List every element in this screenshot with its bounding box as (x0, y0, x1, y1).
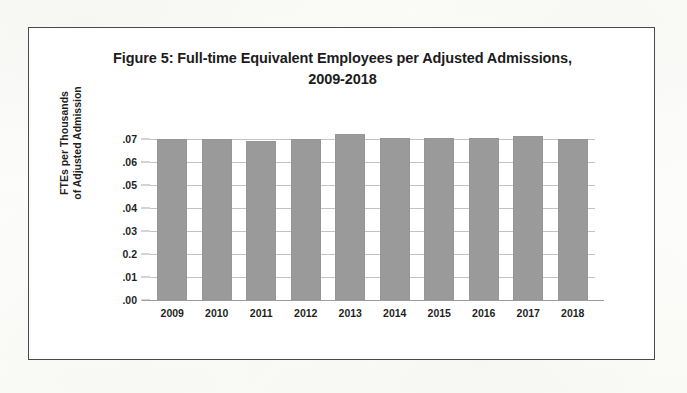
plot-area (150, 116, 595, 300)
bar-slot (551, 116, 596, 300)
bar-slot (506, 116, 551, 300)
x-axis-tick-label: 2014 (373, 307, 418, 319)
x-axis-tick-labels: 2009201020112012201320142015201620172018 (150, 307, 595, 319)
bar-slot (195, 116, 240, 300)
bar (380, 138, 410, 300)
x-axis-tick-label: 2011 (239, 307, 284, 319)
bar-series (150, 116, 595, 300)
bar (202, 139, 232, 300)
y-axis-tick-label: .05 (101, 179, 137, 191)
x-axis-tick-label: 2013 (328, 307, 373, 319)
bar-slot (417, 116, 462, 300)
y-axis-tick-mark (141, 300, 150, 301)
y-axis-title-line-2: of Adjusted Admission (71, 63, 84, 223)
y-axis-tick-label: .01 (101, 271, 137, 283)
x-axis-tick-label: 2010 (195, 307, 240, 319)
bar (335, 134, 365, 300)
y-axis-title: FTEs per Thousands of Adjusted Admission (58, 63, 88, 223)
y-axis-tick-label: 0.2 (101, 248, 137, 260)
x-axis-tick-label: 2009 (150, 307, 195, 319)
bar (246, 141, 276, 300)
bar (291, 139, 321, 300)
x-axis-tick-label: 2015 (417, 307, 462, 319)
y-axis-tick-label: .07 (101, 133, 137, 145)
y-axis-tick-labels: .07.06.05.04.030.2.01.00 (101, 116, 137, 300)
y-axis-tick-label: .03 (101, 225, 137, 237)
x-axis-tick-label: 2018 (551, 307, 596, 319)
x-axis-line (142, 300, 604, 301)
y-axis-tick-label: .06 (101, 156, 137, 168)
bar (157, 139, 187, 300)
figure-frame: Figure 5: Full-time Equivalent Employees… (28, 27, 655, 360)
y-axis-tick-mark (141, 231, 150, 232)
y-axis-title-line-1: FTEs per Thousands (58, 63, 71, 223)
x-axis-tick-label: 2017 (506, 307, 551, 319)
bar-slot (284, 116, 329, 300)
y-axis-tick-mark (141, 162, 150, 163)
bar (558, 139, 588, 300)
plot-wrapper: FTEs per Thousands of Adjusted Admission… (29, 28, 656, 361)
bar-slot (462, 116, 507, 300)
y-axis-tick-mark (141, 277, 150, 278)
bar-slot (328, 116, 373, 300)
bar-slot (150, 116, 195, 300)
x-axis-tick-label: 2016 (462, 307, 507, 319)
y-axis-tick-mark (141, 139, 150, 140)
bar (469, 138, 499, 300)
y-axis-tick-mark (141, 185, 150, 186)
y-axis-tick-label: .04 (101, 202, 137, 214)
y-axis-tick-mark (141, 208, 150, 209)
bar-slot (239, 116, 284, 300)
bar-slot (373, 116, 418, 300)
y-axis-tick-label: .00 (101, 294, 137, 306)
bar (424, 138, 454, 300)
bar (513, 136, 543, 300)
x-axis-tick-label: 2012 (284, 307, 329, 319)
y-axis-tick-mark (141, 254, 150, 255)
